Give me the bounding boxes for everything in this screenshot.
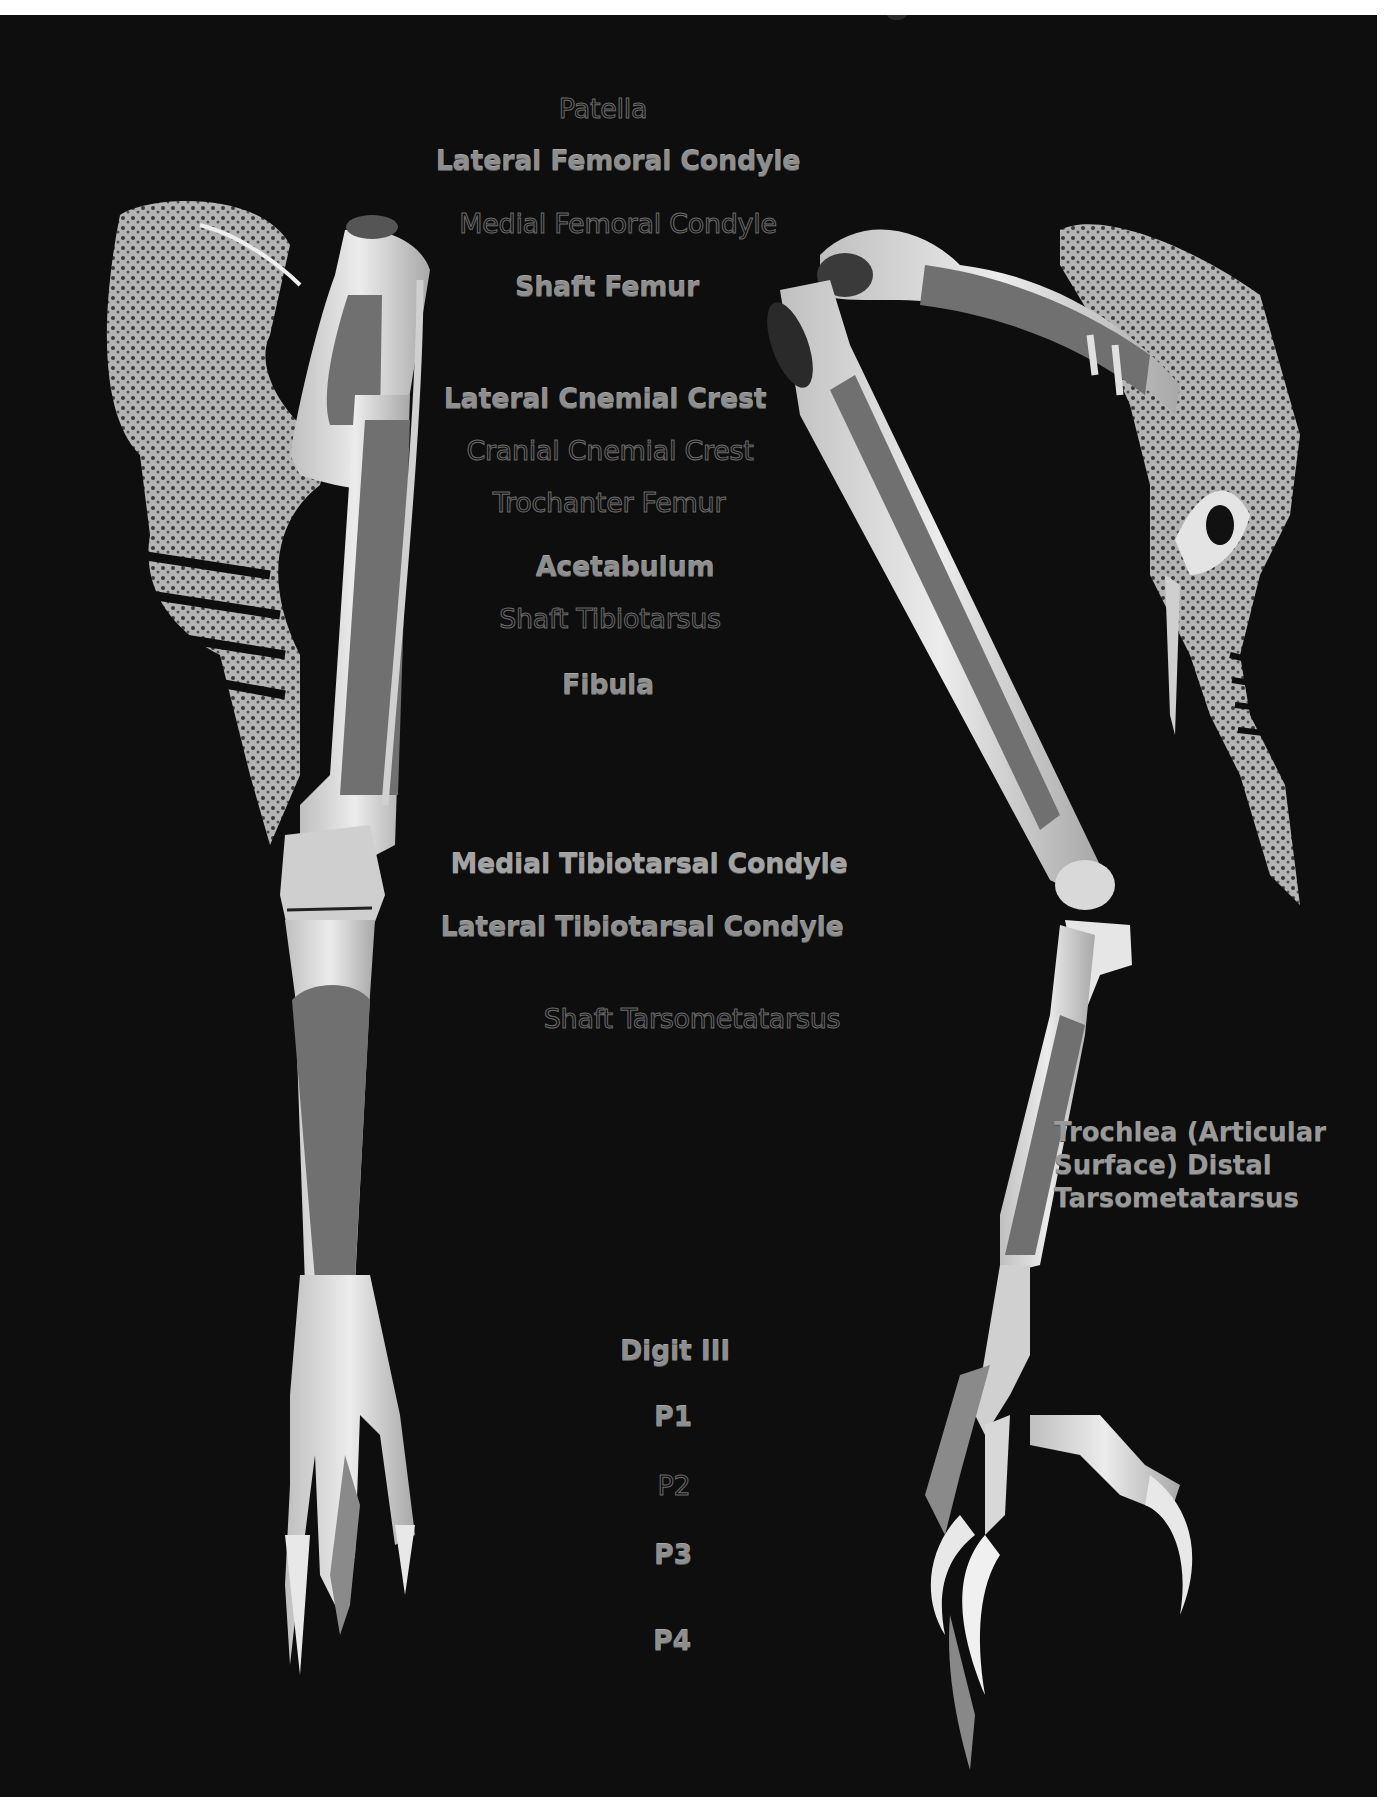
trochlea-line-1: Trochlea (Articular: [1054, 1116, 1326, 1149]
left-pelvis: [107, 201, 330, 845]
label-acetabulum: Acetabulum: [536, 553, 715, 580]
label-lateral-cnemial-crest: Lateral Cnemial Crest: [444, 385, 767, 412]
label-p3: P3: [654, 1541, 692, 1568]
left-foot: [285, 1275, 415, 1675]
label-medial-femoral-condyle: Medial Femoral Condyle: [459, 210, 777, 237]
label-lateral-femoral-condyle: Lateral Femoral Condyle: [436, 147, 801, 174]
label-trochanter-femur: Trochanter Femur: [493, 489, 725, 516]
figure-canvas: Patella Lateral Femoral Condyle Medial F…: [0, 15, 1377, 1797]
label-fibula: Fibula: [562, 671, 654, 698]
label-cranial-cnemial-crest: Cranial Cnemial Crest: [466, 437, 753, 464]
hallux-talon: [1145, 1475, 1192, 1615]
left-tarsometatarsus: [285, 920, 375, 1295]
label-patella: Patella: [559, 95, 647, 122]
label-shaft-tarsometatarsus: Shaft Tarsometatarsus: [544, 1005, 840, 1032]
label-shaft-tibiotarsus: Shaft Tibiotarsus: [499, 605, 721, 632]
label-p4: P4: [653, 1627, 691, 1654]
trochlea-line-3: Tarsometatarsus: [1054, 1182, 1326, 1215]
label-medial-tibiotarsal-condyle: Medial Tibiotarsal Condyle: [450, 850, 847, 877]
right-foot: [925, 1265, 1192, 1770]
label-shaft-femur: Shaft Femur: [515, 273, 699, 300]
label-digit-iii: Digit III: [620, 1337, 730, 1364]
label-trochlea-distal-tarsometatarsus: Trochlea (Articular Surface) Distal Tars…: [1054, 1116, 1326, 1215]
right-tarsometatarsus: [1000, 925, 1095, 1275]
label-lateral-tibiotarsal-condyle: Lateral Tibiotarsal Condyle: [440, 913, 843, 940]
label-p1: P1: [654, 1403, 692, 1430]
trochlea-line-2: Surface) Distal: [1054, 1149, 1326, 1182]
label-p2: P2: [658, 1472, 691, 1499]
right-tibiotarsus: [758, 280, 1100, 895]
